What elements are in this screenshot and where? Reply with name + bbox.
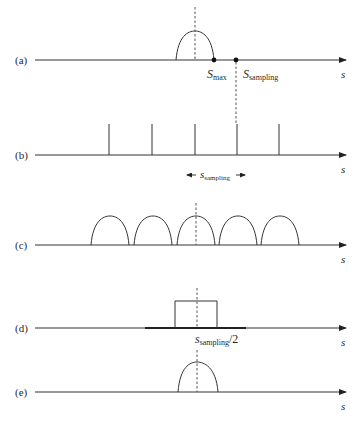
s-sampling-spacing-label: ssampling — [200, 168, 230, 182]
replica-bump — [91, 216, 129, 245]
panel-label-a: (a) — [15, 54, 28, 67]
box-filter — [175, 301, 217, 328]
panel-b: (b) s ssampling — [15, 124, 346, 182]
cutoff-label: ssampling/2 — [195, 332, 238, 347]
recovered-bump — [178, 362, 218, 392]
axis-label-c: s — [341, 253, 345, 265]
axis-label-d: s — [341, 336, 345, 348]
panel-c: (c) s — [15, 203, 346, 265]
replica-bump — [134, 216, 172, 245]
axis-label-b: s — [341, 163, 345, 175]
panel-label-b: (b) — [15, 149, 28, 162]
replica-bump — [261, 216, 299, 245]
replica-bump — [219, 216, 257, 245]
panel-e: (e) s — [15, 350, 346, 412]
panel-d: (d) s ssampling/2 — [15, 288, 346, 348]
axis-label-e: s — [341, 400, 345, 412]
s-max-dot — [212, 58, 217, 63]
sampling-diagram: (a) s Smax Ssampling (b) s ssampling (c)… — [0, 0, 362, 427]
s-sampling-label: Ssampling — [243, 67, 278, 82]
s-max-label: Smax — [207, 67, 227, 82]
panel-label-e: (e) — [15, 386, 28, 399]
panel-label-c: (c) — [15, 239, 28, 252]
panel-label-d: (d) — [15, 322, 28, 335]
s-sampling-dot — [234, 58, 239, 63]
axis-label-a: s — [341, 68, 345, 80]
panel-a: (a) s Smax Ssampling — [15, 7, 346, 124]
